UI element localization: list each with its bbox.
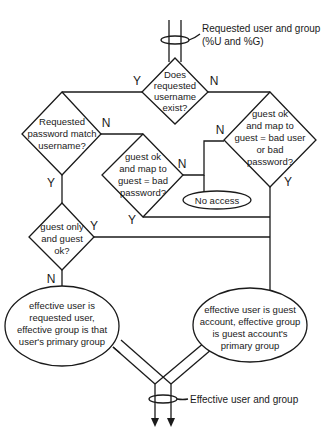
output-label: Effective user and group bbox=[190, 394, 299, 405]
svg-text:requested user,: requested user, bbox=[29, 312, 95, 323]
label-exists-no: N bbox=[210, 74, 219, 88]
svg-text:Does: Does bbox=[164, 69, 186, 80]
label-exists-yes: Y bbox=[133, 74, 141, 88]
decision-bad-user-or-password: guest ok and map to guest = bad user or … bbox=[224, 92, 316, 187]
svg-text:and map to: and map to bbox=[246, 120, 294, 131]
terminal-result-guest: effective user is guest account, effecti… bbox=[193, 288, 307, 362]
svg-text:guest = bad user: guest = bad user bbox=[234, 132, 305, 143]
terminal-result-requested-user: effective user is requested user, effect… bbox=[5, 286, 119, 366]
svg-text:primary group: primary group bbox=[221, 340, 280, 351]
input-connector bbox=[161, 20, 200, 62]
svg-text:requested: requested bbox=[154, 80, 196, 91]
svg-text:effective group is that: effective group is that bbox=[17, 324, 107, 335]
svg-text:password?: password? bbox=[120, 187, 166, 198]
svg-text:username: username bbox=[154, 91, 196, 102]
label-pwmatch-yes: Y bbox=[47, 176, 55, 190]
svg-text:and guest: and guest bbox=[41, 233, 83, 244]
label-pwmatch-no: N bbox=[102, 116, 111, 130]
decision-password-match: Requested password match username? bbox=[22, 92, 101, 175]
input-label-line1: Requested user and group bbox=[202, 23, 321, 34]
label-guestonly-no: N bbox=[47, 272, 56, 286]
svg-text:Requested: Requested bbox=[39, 116, 85, 127]
terminal-no-access: No access bbox=[183, 191, 251, 209]
svg-text:ok?: ok? bbox=[54, 245, 69, 256]
svg-text:password?: password? bbox=[247, 156, 293, 167]
label-badpw-no: N bbox=[178, 157, 187, 171]
input-label-line2: (%U and %G) bbox=[202, 36, 264, 47]
svg-text:and map to: and map to bbox=[119, 163, 167, 174]
svg-text:is guest account's: is guest account's bbox=[212, 328, 287, 339]
svg-text:guest ok: guest ok bbox=[252, 108, 288, 119]
label-baduser-no: N bbox=[216, 123, 225, 137]
label-badpw-yes: Y bbox=[128, 213, 136, 227]
decision-bad-password: guest ok and map to guest = bad password… bbox=[102, 134, 183, 217]
label-guestonly-yes: Y bbox=[90, 219, 98, 233]
decision-username-exists: Does requested username exist? bbox=[142, 58, 208, 124]
svg-text:username?: username? bbox=[38, 140, 86, 151]
svg-text:account, effective group: account, effective group bbox=[200, 316, 301, 327]
svg-text:password match: password match bbox=[27, 128, 96, 139]
funnel-overlay bbox=[113, 347, 120, 353]
svg-text:user's primary group: user's primary group bbox=[19, 336, 105, 347]
svg-text:guest ok: guest ok bbox=[125, 151, 161, 162]
flowchart: Requested user and group (%U and %G) bbox=[0, 0, 327, 434]
svg-text:guest = bad: guest = bad bbox=[118, 175, 168, 186]
label-baduser-yes: Y bbox=[284, 175, 292, 189]
svg-text:or bad: or bad bbox=[257, 144, 284, 155]
svg-text:guest only: guest only bbox=[40, 221, 84, 232]
svg-text:No access: No access bbox=[195, 195, 240, 206]
decision-guest-only: guest only and guest ok? bbox=[29, 203, 94, 270]
svg-text:effective user is: effective user is bbox=[29, 300, 95, 311]
svg-text:effective user is guest: effective user is guest bbox=[204, 304, 296, 315]
svg-text:exist?: exist? bbox=[163, 102, 188, 113]
